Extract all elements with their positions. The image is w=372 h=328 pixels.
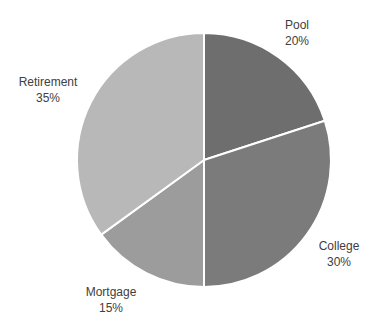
label-mortgage-value: 15%: [86, 300, 137, 316]
data-label-college: College 30%: [319, 238, 360, 270]
data-label-mortgage: Mortgage 15%: [86, 284, 137, 316]
label-college-value: 30%: [319, 254, 360, 270]
label-retirement-value: 35%: [19, 90, 78, 106]
label-pool-name: Pool: [285, 17, 309, 33]
label-pool-value: 20%: [285, 33, 309, 49]
label-mortgage-name: Mortgage: [86, 284, 137, 300]
label-retirement-name: Retirement: [19, 74, 78, 90]
data-label-pool: Pool 20%: [285, 17, 309, 49]
pie-chart: [0, 0, 372, 328]
label-college-name: College: [319, 238, 360, 254]
data-label-retirement: Retirement 35%: [19, 74, 78, 106]
